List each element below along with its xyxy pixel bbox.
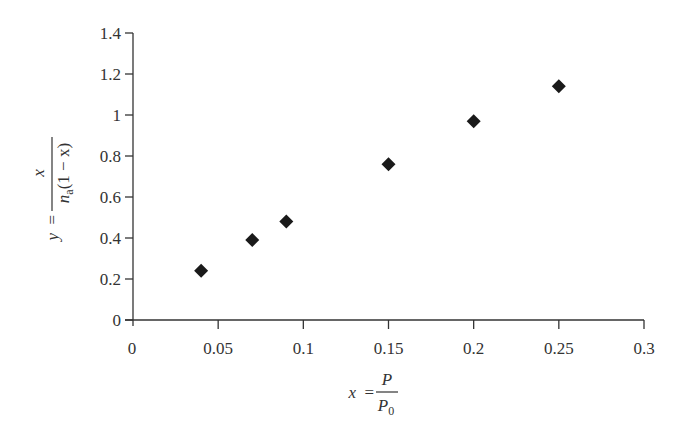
data-point-diamond [382,157,396,171]
y-axis-label: y = x na(1 − x) [29,137,76,242]
y-label-denominator: na(1 − x) [54,143,76,203]
y-tick-label: 0.8 [100,147,121,166]
x-tick-label: 0.1 [293,339,314,358]
x-label-numerator: P [381,370,392,389]
y-tick-label: 0 [113,311,122,330]
data-point-diamond [467,114,481,128]
data-points [194,79,566,277]
x-label-denominator: P0 [377,396,394,418]
y-tick-label: 0.2 [100,270,121,289]
y-label-numerator: x [29,169,48,178]
x-tick-label: 0.2 [463,339,484,358]
y-tick-label: 1.2 [100,65,121,84]
x-label-equals: = [364,383,374,402]
scatter-chart: 00.20.40.60.811.21.400.050.10.150.20.250… [0,0,680,447]
x-tick-label: 0.3 [633,339,654,358]
y-tick-label: 1 [113,106,122,125]
x-tick-label: 0.25 [544,339,574,358]
data-point-diamond [279,215,293,229]
y-tick-label: 0.4 [100,229,122,248]
svg-text:y =: y = [43,215,62,242]
axes: 00.20.40.60.811.21.400.050.10.150.20.250… [100,24,655,358]
x-axis-label: x = P P0 [348,370,398,418]
y-label-equals: = [43,215,62,225]
y-label-lhs: y [43,232,62,242]
x-label-lhs: x [348,383,357,402]
x-tick-label: 0.15 [374,339,404,358]
data-point-diamond [552,79,566,93]
x-tick-label: 0.05 [203,339,233,358]
svg-text:x =: x = [348,383,374,402]
y-tick-label: 1.4 [100,24,122,43]
y-tick-label: 0.6 [100,188,121,207]
data-point-diamond [245,233,259,247]
x-tick-label: 0 [128,339,137,358]
data-point-diamond [194,264,208,278]
